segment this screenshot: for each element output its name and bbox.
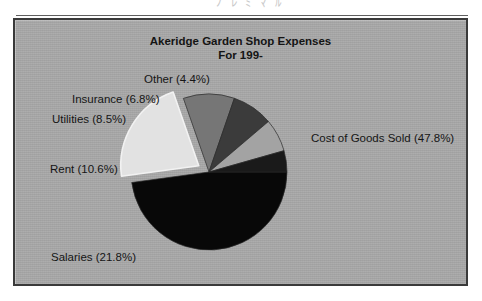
chart-title-line2: For 199- [15, 48, 466, 62]
slice-label-utilities: Utilities (8.5%) [52, 113, 126, 126]
chart-title-line1: Akeridge Garden Shop Expenses [150, 35, 332, 47]
scanned-page-top-text: ﾠ ﾉ ﾚ ﾐ ﾏ ﾙ [0, 0, 482, 9]
chart-figure-frame: Akeridge Garden Shop Expenses For 199- C… [13, 18, 468, 286]
slice-label-insurance: Insurance (6.8%) [72, 93, 160, 106]
pie-slice-cost-of-goods-sold [132, 172, 287, 250]
scanned-page-rule [16, 15, 468, 16]
slice-label-rent: Rent (10.6%) [50, 163, 118, 176]
slice-label-salaries: Salaries (21.8%) [51, 251, 136, 264]
pie-slice-group [121, 92, 287, 250]
slice-label-cost-of-goods-sold: Cost of Goods Sold (47.8%) [311, 132, 454, 145]
chart-title: Akeridge Garden Shop Expenses For 199- [15, 34, 466, 62]
slice-label-other: Other (4.4%) [144, 73, 210, 86]
